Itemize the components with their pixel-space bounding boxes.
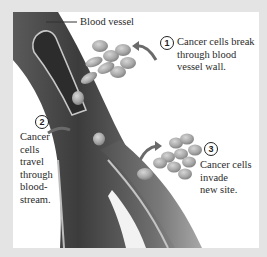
step-3-text: Cancer cells invade new site. bbox=[200, 159, 252, 197]
step-2-text: Cancer cells travel through blood- strea… bbox=[20, 131, 53, 206]
step-1-text: Cancer cells break through blood vessel … bbox=[177, 36, 255, 74]
blood-vessel-label: Blood vessel bbox=[80, 16, 134, 29]
step-1-badge: 1 bbox=[160, 36, 174, 50]
step-3-badge: 3 bbox=[204, 142, 218, 156]
diagram-panel: Blood vessel 1 Cancer cells break throug… bbox=[13, 12, 259, 248]
cancer-cell-cluster-3 bbox=[137, 134, 202, 181]
step-2-badge: 2 bbox=[35, 115, 49, 129]
